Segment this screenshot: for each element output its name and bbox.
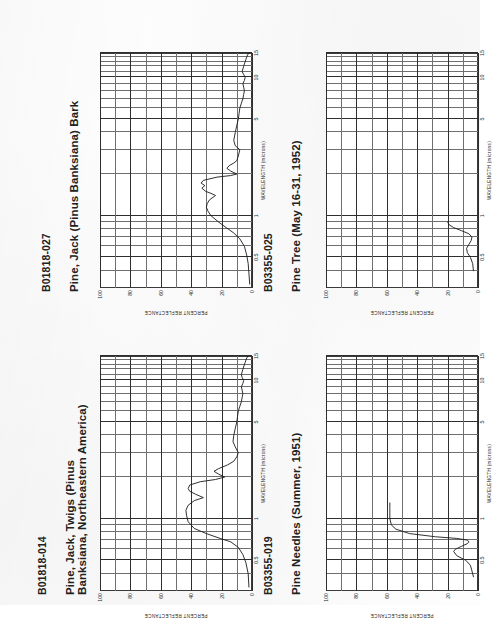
plot-area: 0.5151015020406080100WAVELENGTH (microns… bbox=[100, 356, 252, 591]
y-tick-label: 0 bbox=[475, 290, 481, 300]
panel-bottom-left: B01818-014 Pine, Jack, Twigs (Pinus Bank… bbox=[0, 303, 240, 605]
plot-area: 0.5151015020406080100WAVELENGTH (microns… bbox=[326, 356, 478, 591]
y-tick-label: 60 bbox=[158, 290, 164, 300]
y-tick-label: 20 bbox=[445, 593, 451, 603]
y-tick-label: 100 bbox=[97, 593, 103, 603]
y-tick-label: 80 bbox=[127, 593, 133, 603]
y-tick-label: 100 bbox=[323, 593, 329, 603]
y-tick-label: 80 bbox=[127, 290, 133, 300]
y-tick-label: 60 bbox=[384, 290, 390, 300]
plot-area: 0.5151015020406080100WAVELENGTH (microns… bbox=[100, 53, 252, 288]
y-tick-label: 40 bbox=[188, 290, 194, 300]
spectral-curve bbox=[100, 53, 252, 288]
panel-top-right: B03355-025 Pine Tree (May 16-31, 1952) 0… bbox=[240, 0, 480, 303]
spectral-curve bbox=[100, 356, 252, 591]
x-tick-label: 15 bbox=[479, 50, 485, 56]
y-tick-label: 60 bbox=[384, 593, 390, 603]
spectral-curve bbox=[326, 53, 478, 288]
panel-bottom-right: B03355-019 Pine Needles (Summer, 1951) 0… bbox=[240, 303, 480, 605]
panel-title: Pine Tree (May 16-31, 1952) bbox=[290, 140, 302, 292]
plot-frame: 0.5151015020406080100WAVELENGTH (microns… bbox=[100, 356, 252, 591]
panel-title: Pine, Jack, Twigs (Pinus bbox=[64, 460, 76, 595]
y-tick-label: 40 bbox=[188, 593, 194, 603]
x-tick-label: 0.5 bbox=[479, 557, 485, 565]
y-axis-title: PERCENT REFLECTANCE bbox=[144, 613, 207, 618]
y-tick-label: 20 bbox=[219, 290, 225, 300]
x-tick-label: 10 bbox=[479, 377, 485, 383]
panel-title: Pine, Jack (Pinus Banksiana) Bark bbox=[68, 101, 80, 292]
y-tick-label: 0 bbox=[475, 593, 481, 603]
x-tick-label: 15 bbox=[479, 353, 485, 359]
panel-title: Pine Needles (Summer, 1951) bbox=[290, 433, 302, 596]
x-tick-label: 1 bbox=[479, 517, 485, 520]
plot-frame: 0.5151015020406080100WAVELENGTH (microns… bbox=[326, 356, 478, 591]
x-axis-title: WAVELENGTH (microns) bbox=[487, 444, 492, 503]
y-tick-label: 80 bbox=[353, 593, 359, 603]
x-tick-label: 5 bbox=[479, 118, 485, 121]
plot-area: 0.5151015020406080100WAVELENGTH (microns… bbox=[326, 53, 478, 288]
x-tick-label: 0.5 bbox=[479, 254, 485, 262]
y-tick-label: 20 bbox=[445, 290, 451, 300]
x-axis-title: WAVELENGTH (microns) bbox=[487, 141, 492, 200]
y-axis-title: PERCENT REFLECTANCE bbox=[370, 613, 433, 618]
y-tick-label: 40 bbox=[414, 593, 420, 603]
plot-frame: 0.5151015020406080100WAVELENGTH (microns… bbox=[326, 53, 478, 288]
y-tick-label: 40 bbox=[414, 290, 420, 300]
panel-id-label: B03355-019 bbox=[262, 536, 274, 595]
y-tick-label: 20 bbox=[219, 593, 225, 603]
panel-id-label: B01818-014 bbox=[36, 536, 48, 595]
x-tick-label: 1 bbox=[479, 214, 485, 217]
panel-id-label: B01818-027 bbox=[40, 233, 52, 292]
spectral-curve bbox=[326, 356, 478, 591]
y-tick-label: 60 bbox=[158, 593, 164, 603]
x-tick-label: 10 bbox=[479, 74, 485, 80]
x-tick-label: 5 bbox=[479, 421, 485, 424]
y-tick-label: 100 bbox=[97, 290, 103, 300]
panel-id-label: B03355-025 bbox=[262, 233, 274, 292]
y-tick-label: 80 bbox=[353, 290, 359, 300]
panel-top-left: B01818-027 Pine, Jack (Pinus Banksiana) … bbox=[0, 0, 240, 303]
panel-title-line2: Banksiana, Northeastern America) bbox=[76, 404, 88, 595]
y-tick-label: 100 bbox=[323, 290, 329, 300]
plot-frame: 0.5151015020406080100WAVELENGTH (microns… bbox=[100, 53, 252, 288]
